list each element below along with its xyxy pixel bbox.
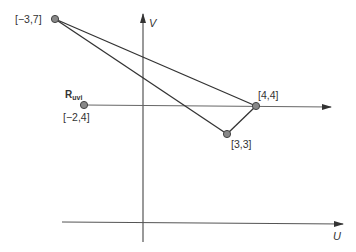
point-label-p2: [4,4] [258, 89, 279, 101]
point-p1[interactable] [51, 15, 58, 22]
v-axis-label: V [149, 17, 158, 29]
u-axis-label: U [333, 230, 341, 242]
point-label-p4: [−2,4] [63, 111, 90, 123]
point-label-p1: [−3,7] [15, 13, 42, 25]
ray-r-uvi [84, 105, 331, 107]
ray-label: Ruvi [65, 89, 82, 101]
point-p2[interactable] [252, 102, 259, 109]
point-p3[interactable] [223, 130, 230, 137]
point-label-p3: [3,3] [231, 138, 252, 150]
u-axis [62, 222, 343, 224]
point-p4[interactable] [80, 101, 87, 108]
diagram-canvas: V U [−3,7] [4,4] [3,3] [−2,4] Ruvi [0, 0, 356, 252]
edge-p1-p2 [55, 19, 256, 106]
edge-p3-p2 [227, 106, 256, 134]
